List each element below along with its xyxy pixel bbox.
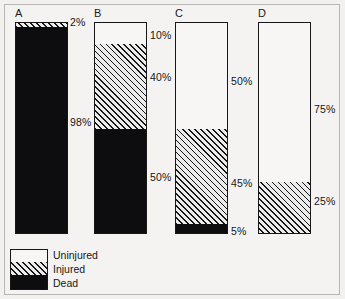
bar-c-pct-dead: 5% [231,226,246,237]
bar-d-pct-injured: 25% [314,196,335,207]
bar-c-pct-injured: 45% [231,178,252,189]
stacked-bar-b [94,22,147,234]
bar-b-pct-uninjured: 10% [150,30,171,41]
legend-swatch-uninjured [11,250,47,262]
bar-category-label-d: D [258,8,266,19]
bar-d-segment-uninjured [259,23,310,182]
legend-swatch-injured [11,262,47,275]
bar-category-label-a: A [15,8,23,19]
bar-a-segment-dead [16,27,67,234]
bar-category-label-c: C [175,8,183,19]
bar-a-pct-dead: 98% [70,117,91,128]
legend-label-uninjured: Uninjured [53,250,98,261]
bar-c-segment-uninjured [176,23,227,129]
bar-c-segment-injured [176,129,227,224]
bar-c-pct-uninjured: 50% [231,76,252,87]
legend-swatch-dead [11,275,47,290]
bar-b-pct-dead: 50% [150,172,171,183]
stacked-bar-c [175,22,228,234]
stacked-bar-d [258,22,311,234]
chart-figure: A 2% 98% B 10% 40% 50% C 50% 45 [0,0,345,299]
bar-b-segment-dead [95,129,146,234]
bar-category-label-b: B [94,8,102,19]
plot-area: A 2% 98% B 10% 40% 50% C 50% 45 [0,0,345,299]
bar-b-segment-uninjured [95,23,146,44]
legend-swatch-stack [10,249,48,290]
bar-d-segment-injured [259,182,310,234]
stacked-bar-a [15,22,68,234]
bar-a-pct-injured: 2% [70,17,85,28]
bar-b-pct-injured: 40% [150,72,171,83]
bar-b-segment-injured [95,44,146,129]
bar-d-pct-uninjured: 75% [314,104,335,115]
bar-c-segment-dead [176,224,227,234]
legend-label-injured: Injured [53,264,85,275]
legend-label-dead: Dead [53,278,78,289]
